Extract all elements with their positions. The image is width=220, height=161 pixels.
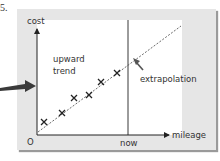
y-axis-label: cost (27, 16, 45, 26)
extrapolation-label: extrapolation (140, 74, 197, 84)
x-axis-label: mileage (172, 130, 206, 140)
trend-label-line1: upward (53, 54, 85, 64)
now-label: now (120, 138, 138, 148)
pointer-arrow-icon (0, 80, 36, 92)
cost-mileage-diagram: cost mileage O now upward trend extrapol… (0, 0, 220, 161)
origin-label: O (27, 137, 34, 147)
trend-label-line2: trend (53, 66, 76, 76)
